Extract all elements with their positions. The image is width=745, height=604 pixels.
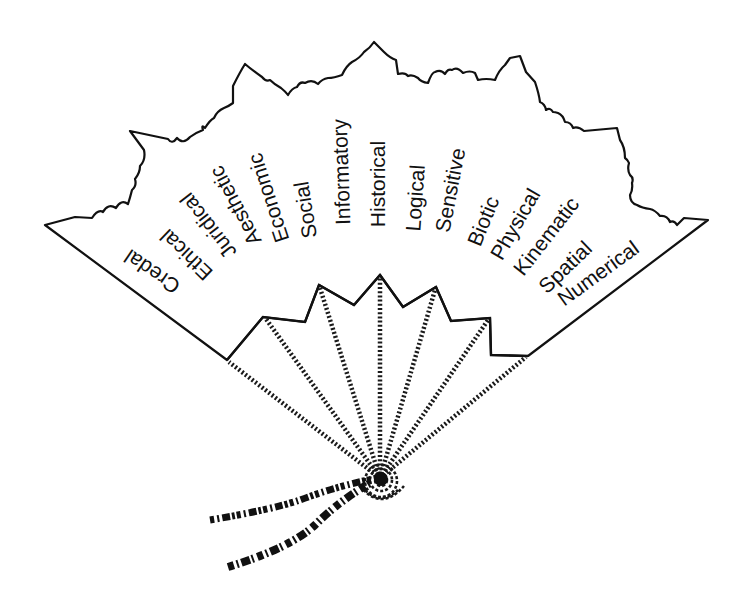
rib-3 xyxy=(320,288,380,478)
rib-5 xyxy=(380,290,435,478)
fan-tassel xyxy=(210,478,378,567)
tassel-cord-lower xyxy=(228,482,372,567)
aspect-label-logical: Logical xyxy=(401,164,429,232)
aspect-label-informatory: Informatory xyxy=(328,118,355,225)
aspect-label-historical: Historical xyxy=(366,141,389,227)
fan-diagram: CredalEthicalJuridicalAestheticEconomicS… xyxy=(0,0,745,604)
rib-2 xyxy=(266,319,380,478)
rib-1 xyxy=(229,362,380,478)
tassel-cord-upper xyxy=(210,478,378,520)
rivet-icon xyxy=(374,472,388,486)
rib-6 xyxy=(380,320,488,478)
